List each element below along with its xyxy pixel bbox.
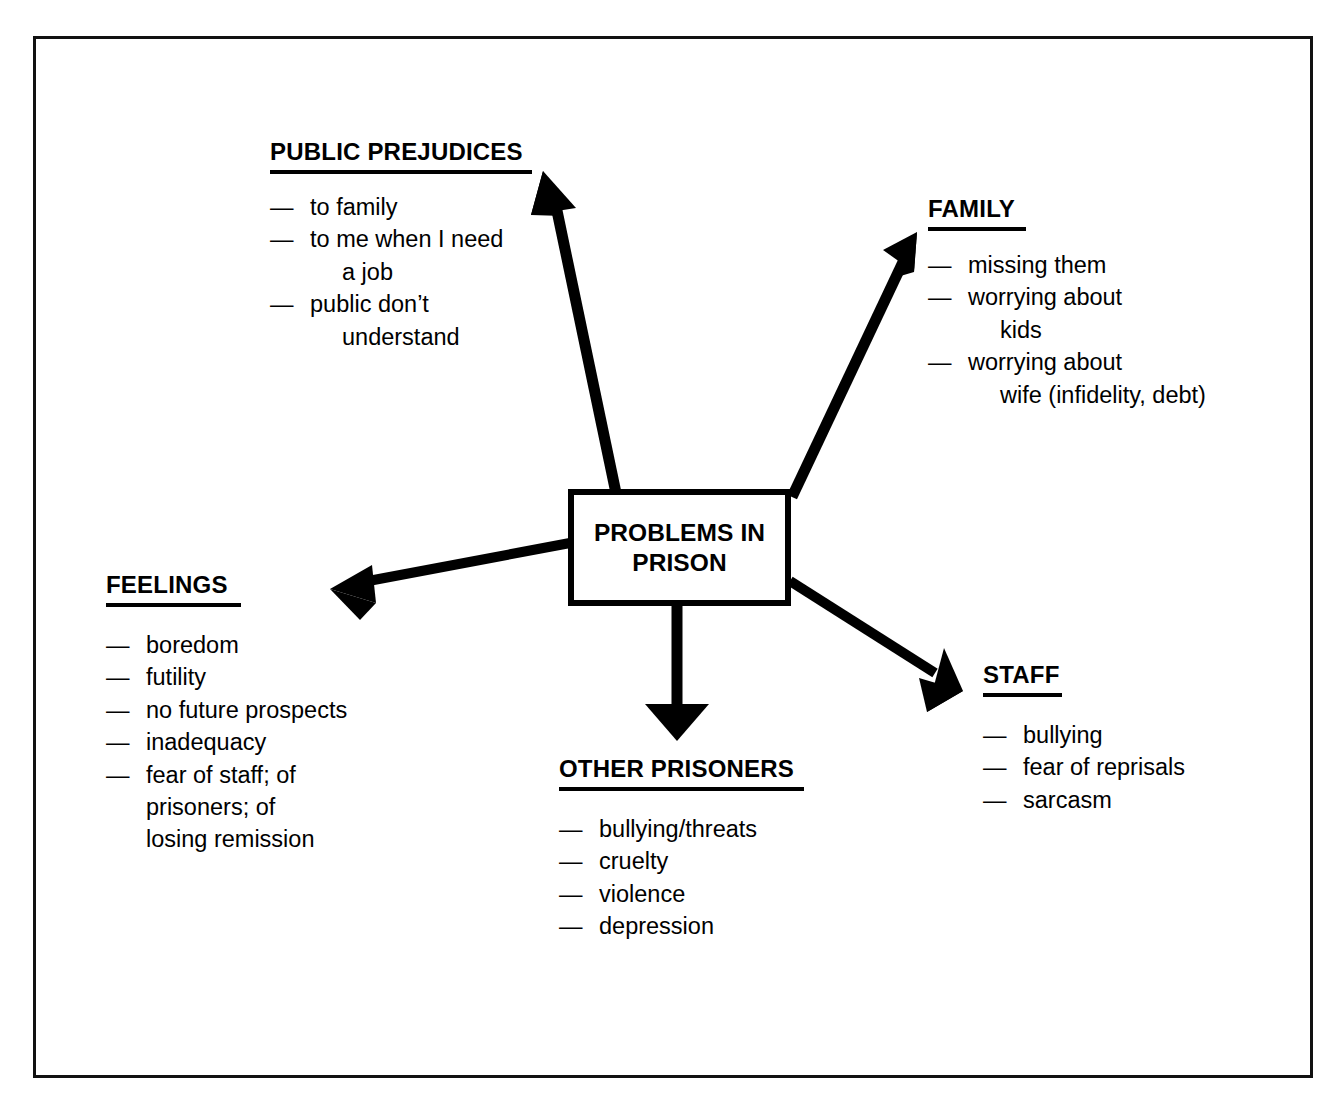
branch-heading-family: FAMILY bbox=[928, 196, 1278, 222]
bullet-dash-icon: — bbox=[270, 191, 310, 223]
list-item: — boredom bbox=[106, 629, 436, 661]
central-node-label: PROBLEMS IN PRISON bbox=[594, 518, 765, 578]
central-node-problems-in-prison: PROBLEMS IN PRISON bbox=[568, 489, 791, 606]
heading-underline-other-prisoners bbox=[559, 787, 804, 791]
list-item-text: no future prospects bbox=[146, 694, 436, 726]
bullet-dash-icon: — bbox=[559, 845, 599, 877]
list-item: — missing them bbox=[928, 249, 1278, 281]
branch-heading-other-prisoners: OTHER PRISONERS bbox=[559, 756, 859, 782]
list-item-text: public don’t understand bbox=[310, 288, 570, 353]
branch-public-prejudices: PUBLIC PREJUDICES — to family — to me wh… bbox=[270, 139, 570, 353]
branch-other-prisoners: OTHER PRISONERS — bullying/threats — cru… bbox=[559, 756, 859, 943]
bullet-dash-icon: — bbox=[106, 694, 146, 726]
list-item-text: depression bbox=[599, 910, 859, 942]
list-item: — worrying about wife (infidelity, debt) bbox=[928, 346, 1278, 411]
bullet-dash-icon: — bbox=[106, 759, 146, 791]
list-item-text: cruelty bbox=[599, 845, 859, 877]
list-item: — to family bbox=[270, 191, 570, 223]
top-caption bbox=[18, 0, 538, 14]
list-item-text: violence bbox=[599, 878, 859, 910]
bullet-dash-icon: — bbox=[106, 726, 146, 758]
list-item-text: futility bbox=[146, 661, 436, 693]
list-item: — inadequacy bbox=[106, 726, 436, 758]
list-item-text: fear of staff; of prisoners; of losing r… bbox=[146, 759, 436, 856]
branch-heading-public-prejudices: PUBLIC PREJUDICES bbox=[270, 139, 570, 165]
list-item: — bullying/threats bbox=[559, 813, 859, 845]
bullet-dash-icon: — bbox=[106, 629, 146, 661]
list-item: — to me when I need a job bbox=[270, 223, 570, 288]
branch-staff: STAFF — bullying — fear of reprisals — s… bbox=[983, 662, 1273, 816]
list-item: — no future prospects bbox=[106, 694, 436, 726]
list-item: — futility bbox=[106, 661, 436, 693]
list-item: — violence bbox=[559, 878, 859, 910]
branch-list-feelings: — boredom — futility — no future prospec… bbox=[106, 629, 436, 856]
list-item-text: to family bbox=[310, 191, 570, 223]
bullet-dash-icon: — bbox=[983, 719, 1023, 751]
list-item: — sarcasm bbox=[983, 784, 1273, 816]
bullet-dash-icon: — bbox=[559, 910, 599, 942]
branch-list-other-prisoners: — bullying/threats — cruelty — violence … bbox=[559, 813, 859, 943]
bullet-dash-icon: — bbox=[270, 223, 310, 255]
list-item-text: missing them bbox=[968, 249, 1278, 281]
list-item: — worrying about kids bbox=[928, 281, 1278, 346]
list-item: — cruelty bbox=[559, 845, 859, 877]
list-item: — fear of staff; of prisoners; of losing… bbox=[106, 759, 436, 856]
list-item: — fear of reprisals bbox=[983, 751, 1273, 783]
list-item-text: bullying bbox=[1023, 719, 1273, 751]
branch-feelings: FEELINGS — boredom — futility — no futur… bbox=[106, 572, 436, 856]
heading-underline-staff bbox=[983, 693, 1062, 697]
heading-underline-family bbox=[928, 227, 1026, 231]
list-item-text: fear of reprisals bbox=[1023, 751, 1273, 783]
list-item-text: to me when I need a job bbox=[310, 223, 570, 288]
bullet-dash-icon: — bbox=[928, 249, 968, 281]
list-item-text: bullying/threats bbox=[599, 813, 859, 845]
bullet-dash-icon: — bbox=[983, 784, 1023, 816]
list-item: — bullying bbox=[983, 719, 1273, 751]
heading-underline-feelings bbox=[106, 603, 241, 607]
branch-list-staff: — bullying — fear of reprisals — sarcasm bbox=[983, 719, 1273, 816]
branch-family: FAMILY — missing them — worrying about k… bbox=[928, 196, 1278, 411]
branch-heading-staff: STAFF bbox=[983, 662, 1273, 688]
list-item-text: worrying about kids bbox=[968, 281, 1278, 346]
list-item-text: boredom bbox=[146, 629, 436, 661]
bullet-dash-icon: — bbox=[928, 281, 968, 313]
branch-list-family: — missing them — worrying about kids — w… bbox=[928, 249, 1278, 411]
diagram-page: PROBLEMS IN PRISON PUBLIC PREJUDICES — t… bbox=[0, 0, 1343, 1096]
bullet-dash-icon: — bbox=[983, 751, 1023, 783]
list-item: — depression bbox=[559, 910, 859, 942]
branch-heading-feelings: FEELINGS bbox=[106, 572, 436, 598]
bullet-dash-icon: — bbox=[928, 346, 968, 378]
bullet-dash-icon: — bbox=[559, 813, 599, 845]
bullet-dash-icon: — bbox=[106, 661, 146, 693]
list-item-text: inadequacy bbox=[146, 726, 436, 758]
list-item-text: sarcasm bbox=[1023, 784, 1273, 816]
heading-underline-public-prejudices bbox=[270, 170, 532, 174]
bullet-dash-icon: — bbox=[559, 878, 599, 910]
bullet-dash-icon: — bbox=[270, 288, 310, 320]
branch-list-public-prejudices: — to family — to me when I need a job — … bbox=[270, 191, 570, 353]
list-item-text: worrying about wife (infidelity, debt) bbox=[968, 346, 1278, 411]
list-item: — public don’t understand bbox=[270, 288, 570, 353]
